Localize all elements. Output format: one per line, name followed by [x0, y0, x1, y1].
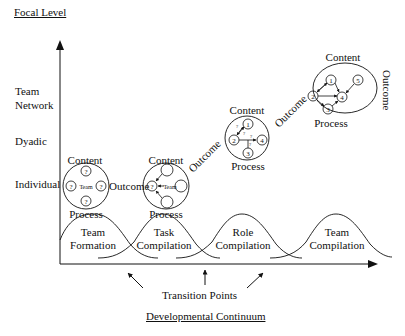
stage-4-node-4: 4 [340, 94, 344, 102]
stage-4-node-2: 2 [311, 93, 315, 101]
stage-3-node-4: 4 [260, 137, 264, 145]
stage-2-task-compilation-diagram: Content ? Team Process [143, 154, 189, 220]
stage-4-node-5: 5 [356, 77, 360, 85]
stage-3-edge-label-4: ? [249, 142, 252, 147]
stage-3-content-label: Content [230, 104, 265, 116]
phase-4-label-line1: Team [325, 226, 350, 238]
transition-arrows [128, 270, 263, 288]
phase-2-label-line2: Compilation [137, 239, 193, 251]
stage-3-node-3: 3 [246, 150, 250, 158]
diagram-canvas: Team Formation Task Compilation Role Com… [0, 0, 405, 336]
stage-4-team-compilation-diagram: Content 1 2 3 4 5 Process Outcome [308, 51, 393, 129]
stage-1-process-label: Process [69, 208, 103, 220]
stage-1-team-label: Team [79, 184, 93, 190]
x-axis [60, 260, 378, 268]
stage-4-content-label: Content [326, 51, 361, 63]
y-axis [56, 40, 64, 264]
stage-2-process-label: Process [149, 208, 183, 220]
stage-3-node-1: 1 [246, 121, 250, 129]
stage-1-node-right: ? [99, 183, 102, 191]
stage-3-edge-label-2: ? [243, 131, 246, 136]
stage-2-team-label: Team [163, 184, 177, 190]
stage-3-node-2: 2 [232, 137, 236, 145]
stage-1-team-formation-diagram: Content ? ? ? ? Team Process [63, 154, 109, 220]
phase-curve-team-formation [60, 214, 158, 258]
outcome-label-2: Outcome [186, 137, 223, 174]
phase-4-label-line2: Compilation [310, 239, 366, 251]
phase-3-label-line1: Role [233, 226, 254, 238]
stage-4-node-3: 3 [326, 106, 330, 114]
phase-3-label-line2: Compilation [216, 239, 272, 251]
phase-1-label-line1: Team [81, 226, 106, 238]
stage-3-edge-label-1: ? [236, 124, 239, 129]
stage-3-role-compilation-diagram: Content 1 2 3 4 ? ? ? ? Process [225, 104, 269, 172]
stage-4-outcome-label: Outcome [381, 70, 393, 110]
stage-4-node-1: 1 [329, 77, 333, 85]
stage-1-node-left: ? [69, 183, 72, 191]
stage-1-node-top: ? [84, 168, 87, 176]
stage-3-edge-label-3: ? [250, 134, 253, 139]
phase-1-label-line2: Formation [70, 239, 116, 251]
stage-1-node-bottom: ? [84, 198, 87, 206]
stage-4-process-label: Process [314, 117, 348, 129]
stage-2-node-left: ? [150, 183, 153, 191]
stage-4-outer-ellipse [313, 63, 377, 113]
outcome-label-3: Outcome [272, 92, 309, 129]
transition-arrow-3 [247, 273, 263, 288]
stage-1-content-label: Content [68, 154, 103, 166]
phase-2-label-line1: Task [154, 226, 175, 238]
stage-3-process-label: Process [231, 160, 265, 172]
transition-arrow-1 [128, 273, 143, 288]
